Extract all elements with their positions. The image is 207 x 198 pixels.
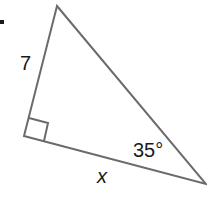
- side-label-left: 7: [20, 52, 31, 74]
- side-label-bottom: x: [96, 165, 108, 187]
- triangle: [24, 6, 206, 184]
- angle-label: 35°: [133, 139, 163, 161]
- problem-marker-dot: [0, 20, 4, 24]
- right-triangle-diagram: 7 35° x: [0, 0, 207, 198]
